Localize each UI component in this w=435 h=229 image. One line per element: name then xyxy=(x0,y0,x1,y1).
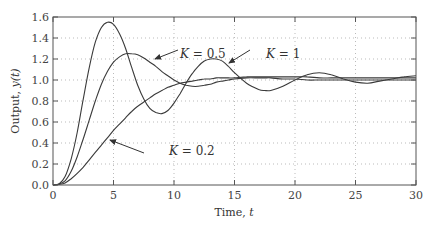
y-tick-label: 0.2 xyxy=(32,158,50,171)
x-tick-label: 15 xyxy=(228,189,242,202)
step-response-chart: 0510152025300.00.20.40.60.81.01.21.41.6 … xyxy=(0,0,435,229)
annotation-arrow xyxy=(110,140,144,153)
y-tick-label: 0.6 xyxy=(32,116,50,129)
x-tick-label: 20 xyxy=(288,189,302,202)
annotation-label: K = 0.5 xyxy=(179,47,226,61)
curve-annotations: K = 0.5K = 1K = 0.2 xyxy=(110,47,300,158)
y-tick-label: 0.8 xyxy=(32,95,50,108)
annotation-label: K = 1 xyxy=(265,47,300,61)
annotation-label: K = 0.2 xyxy=(168,144,215,158)
y-tick-label: 1.2 xyxy=(32,53,50,66)
x-tick-label: 5 xyxy=(110,189,117,202)
x-axis-label: Time, t xyxy=(214,206,254,219)
annotation-arrow xyxy=(155,50,178,59)
curve-k-1 xyxy=(53,22,416,185)
x-tick-label: 25 xyxy=(349,189,363,202)
grid-lines xyxy=(53,17,416,185)
axis-ticks: 0510152025300.00.20.40.60.81.01.21.41.6 xyxy=(32,11,424,202)
x-tick-label: 0 xyxy=(50,189,57,202)
y-tick-label: 0.0 xyxy=(32,179,50,192)
y-tick-label: 0.4 xyxy=(32,137,50,150)
x-tick-label: 10 xyxy=(167,189,181,202)
annotation-arrow xyxy=(229,50,250,63)
y-tick-label: 1.6 xyxy=(32,11,50,24)
y-tick-label: 1.0 xyxy=(32,74,50,87)
plot-curves xyxy=(53,22,416,185)
x-tick-label: 30 xyxy=(409,189,423,202)
y-axis-label: Output, y(t) xyxy=(9,68,22,133)
y-tick-label: 1.4 xyxy=(32,32,50,45)
